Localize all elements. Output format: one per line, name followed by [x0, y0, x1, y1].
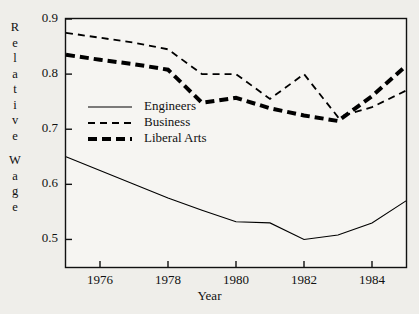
x-tick-label: 1982 [280, 272, 328, 288]
x-tick-label: 1978 [144, 272, 192, 288]
x-tick-label: 1984 [348, 272, 396, 288]
x-tick-label: 1976 [76, 272, 124, 288]
legend-label-liberal-arts: Liberal Arts [144, 130, 206, 146]
legend-label-business: Business [144, 114, 190, 130]
legend-label-engineers: Engineers [144, 98, 196, 114]
x-axis-title: Year [0, 288, 419, 304]
x-tick-labels: 1976 1978 1980 1982 1984 [0, 0, 419, 314]
x-tick-label: 1980 [212, 272, 260, 288]
